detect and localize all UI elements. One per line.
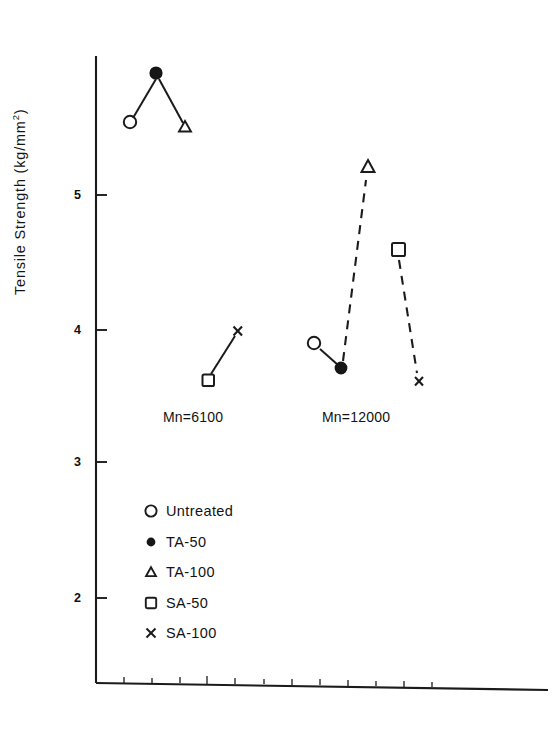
marker-open-triangle xyxy=(179,121,191,132)
series-g1-sa xyxy=(203,327,243,387)
series-g2-ta xyxy=(343,160,375,361)
legend-item-untreated: Untreated xyxy=(136,496,233,527)
legend-label-ta100: TA-100 xyxy=(166,564,215,580)
group-label-mn6100: Mn=6100 xyxy=(163,409,223,425)
marker-open-square xyxy=(392,243,405,256)
marker-open-circle xyxy=(124,116,136,128)
connector-line-dashed xyxy=(399,260,417,373)
open-triangle-icon xyxy=(136,563,166,581)
legend-item-ta100: TA-100 xyxy=(136,557,233,588)
y-axis-title-close: ) xyxy=(12,109,28,115)
legend-item-sa50: SA-50 xyxy=(136,588,233,619)
y-tick-label-5: 5 xyxy=(61,188,81,202)
y-axis-title-exponent: 2 xyxy=(10,114,21,120)
y-tick-label-2: 2 xyxy=(61,591,81,605)
cross-x-icon xyxy=(136,624,166,642)
plot-area xyxy=(0,0,555,737)
legend-label-sa100: SA-100 xyxy=(166,625,217,641)
connector-line xyxy=(320,349,338,365)
x-axis-line xyxy=(96,683,548,690)
marker-open-triangle xyxy=(362,160,375,172)
marker-open-circle xyxy=(308,337,320,349)
connector-line-dashed xyxy=(343,180,366,361)
y-axis-title: Tensile Strength (kg/mm2) xyxy=(10,15,28,295)
legend-label-sa50: SA-50 xyxy=(166,595,208,611)
chart-legend: Untreated TA-50 TA-100 SA-50 xyxy=(136,496,233,649)
y-axis-title-text: Tensile Strength (kg/mm xyxy=(12,120,28,295)
y-axis-major-ticks xyxy=(96,195,107,598)
legend-label-ta50: TA-50 xyxy=(166,534,206,550)
marker-cross-x xyxy=(415,377,423,386)
marker-filled-circle xyxy=(150,67,162,79)
legend-item-sa100: SA-100 xyxy=(136,618,233,649)
y-tick-label-4: 4 xyxy=(61,323,81,337)
y-tick-label-3: 3 xyxy=(61,455,81,469)
marker-filled-circle xyxy=(335,362,346,373)
chart-figure: Tensile Strength (kg/mm2) 5 4 3 2 Mn=610… xyxy=(0,0,555,737)
marker-cross-x xyxy=(234,327,243,336)
open-circle-icon xyxy=(136,502,166,520)
filled-circle-icon xyxy=(136,533,166,551)
series-g2-sa xyxy=(392,243,423,386)
legend-item-ta50: TA-50 xyxy=(136,527,233,558)
series-g2-untreated-ta50 xyxy=(308,337,347,374)
marker-open-square xyxy=(203,375,215,387)
legend-label-untreated: Untreated xyxy=(166,503,233,519)
connector-line xyxy=(133,79,156,118)
open-square-icon xyxy=(136,594,166,612)
group-label-mn12000: Mn=12000 xyxy=(322,409,390,425)
connector-line xyxy=(159,79,183,123)
connector-line xyxy=(211,336,235,374)
series-g1-ta xyxy=(124,67,191,131)
